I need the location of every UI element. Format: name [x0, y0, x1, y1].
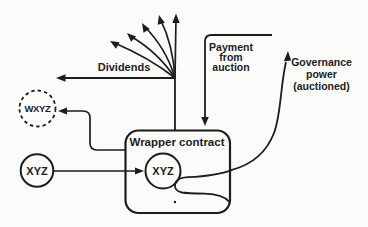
arrowhead-up-icon [172, 14, 179, 24]
payment-label-line3: auction [212, 61, 249, 73]
governance-flow: Governance power (auctioned) [175, 51, 352, 202]
arrowhead-up-icon [158, 15, 165, 25]
wrapper-contract-label: Wrapper contract [129, 136, 224, 148]
dividends-flow: Dividends [56, 14, 180, 131]
governance-label-line1: Governance [291, 56, 352, 68]
arrowhead-right-icon [135, 167, 144, 174]
wrapped-token-label: WXYZ [24, 103, 51, 114]
ink-speck [174, 201, 176, 203]
arrowhead-up-icon [110, 41, 120, 49]
dividends-fan-arrow-line [175, 17, 176, 78]
arrowhead-up-icon [127, 33, 136, 42]
arrowhead-left-icon [58, 107, 67, 114]
token-wrapper-diagram: Dividends Payment from auction Governanc… [0, 0, 368, 227]
arrowhead-left-icon [56, 74, 66, 82]
outer-token-label: XYZ [26, 165, 48, 177]
inner-token-label: XYZ [152, 165, 174, 177]
diagram-canvas: Dividends Payment from auction Governanc… [0, 0, 368, 227]
governance-label-line3: (auctioned) [293, 80, 350, 92]
payment-flow: Payment from auction [201, 35, 272, 126]
arrowhead-up-icon [284, 51, 291, 61]
mint-flow: WXYZ [20, 91, 126, 151]
mint-arrow-line [67, 111, 126, 150]
arrowhead-down-icon [201, 117, 208, 126]
dividends-label: Dividends [98, 61, 151, 73]
governance-label-line2: power [306, 68, 337, 80]
